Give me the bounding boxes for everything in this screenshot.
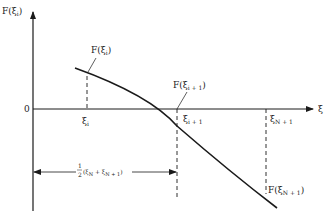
f-xi-i1-label: F(ξi + 1) (173, 80, 206, 91)
origin-label: 0 (24, 104, 30, 114)
f-xi-i-label: F(ξi) (91, 45, 111, 56)
f-xi-n1-label: F(ξN + 1) (268, 185, 304, 196)
x-axis-label: ξ (318, 104, 323, 114)
root-finding-diagram: F(ξi) ξ 0 F(ξi) ξi F(ξi + 1) ξi + 1 ξN +… (0, 0, 335, 216)
tick-label-xi-i: ξi (82, 116, 89, 127)
interval-label: 1 2 (ξN + ξN + 1) (77, 162, 122, 178)
svg-text:2: 2 (78, 171, 82, 178)
svg-text:1: 1 (78, 162, 82, 169)
svg-text:(ξN + ξN + 1): (ξN + ξN + 1) (83, 168, 122, 177)
tick-label-xi-n1: ξN + 1 (270, 114, 293, 125)
xi-i1-leader (177, 92, 187, 109)
f-xi-i-leader (88, 58, 96, 72)
tick-label-xi-i1: ξi + 1 (183, 114, 203, 125)
y-axis-label: F(ξi) (2, 6, 22, 17)
